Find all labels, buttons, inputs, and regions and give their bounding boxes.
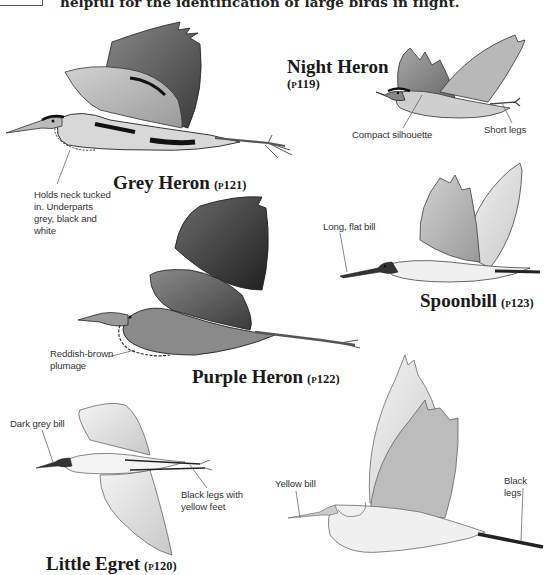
purple-heron-illustration	[78, 197, 360, 356]
species-title-grey-heron: Grey Heron (p121)	[113, 172, 247, 194]
note-purple-heron: Reddish-brown plumage	[50, 348, 113, 372]
note-great-egret-bill: Yellow bill	[275, 478, 316, 490]
note-grey-heron: Holds neck tucked in. Underparts grey, b…	[34, 189, 111, 237]
species-title-night-heron: Night Heron (p119)	[287, 56, 389, 92]
species-title-spoonbill: Spoonbill (p123)	[420, 290, 534, 312]
species-title-little-egret: Little Egret (p120)	[46, 553, 177, 575]
species-title-purple-heron: Purple Heron (p122)	[192, 366, 340, 388]
note-great-egret-legs: Black legs	[504, 475, 545, 499]
note-night-heron-legs: Short legs	[484, 124, 526, 136]
note-little-egret-legs: Black legs with yellow feet	[181, 489, 243, 513]
note-little-egret-bill: Dark grey bill	[10, 418, 65, 430]
grey-heron-illustration	[6, 22, 292, 158]
note-night-heron-silhouette: Compact silhouette	[352, 129, 432, 141]
note-spoonbill-bill: Long, flat bill	[323, 221, 375, 233]
night-heron-illustration	[376, 35, 525, 118]
